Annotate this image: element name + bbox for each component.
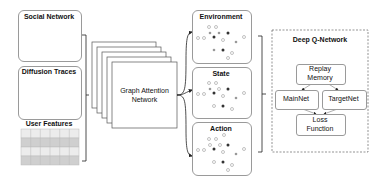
state-label: State [192, 70, 250, 77]
environment-label: Environment [192, 13, 250, 20]
gat-label: Graph Attention Network [112, 86, 177, 104]
gat-stack [92, 42, 177, 128]
loss-function-label: Loss Function [296, 115, 344, 133]
diffusion-traces-label: Diffusion Traces [18, 68, 80, 75]
replay-memory-line1: Replay [296, 65, 344, 74]
gat-label-line1: Graph Attention [112, 86, 177, 95]
replay-memory-label: Replay Memory [296, 65, 344, 82]
gat-label-line2: Network [112, 95, 177, 104]
input-bracket [82, 35, 89, 161]
user-features-label: User Features [18, 120, 80, 127]
replay-memory-line2: Memory [296, 74, 344, 83]
loss-line1: Loss [296, 115, 344, 124]
mainnet-label: MainNet [275, 95, 317, 102]
loss-line2: Function [296, 124, 344, 133]
dqn-title: Deep Q-Network [272, 36, 368, 43]
social-network-label: Social Network [18, 13, 80, 20]
targetnet-label: TargetNet [322, 95, 365, 102]
rl-bracket [258, 36, 266, 152]
action-label: Action [192, 125, 250, 132]
gat-output-arrows [177, 32, 192, 156]
user-features-grid [21, 129, 79, 165]
